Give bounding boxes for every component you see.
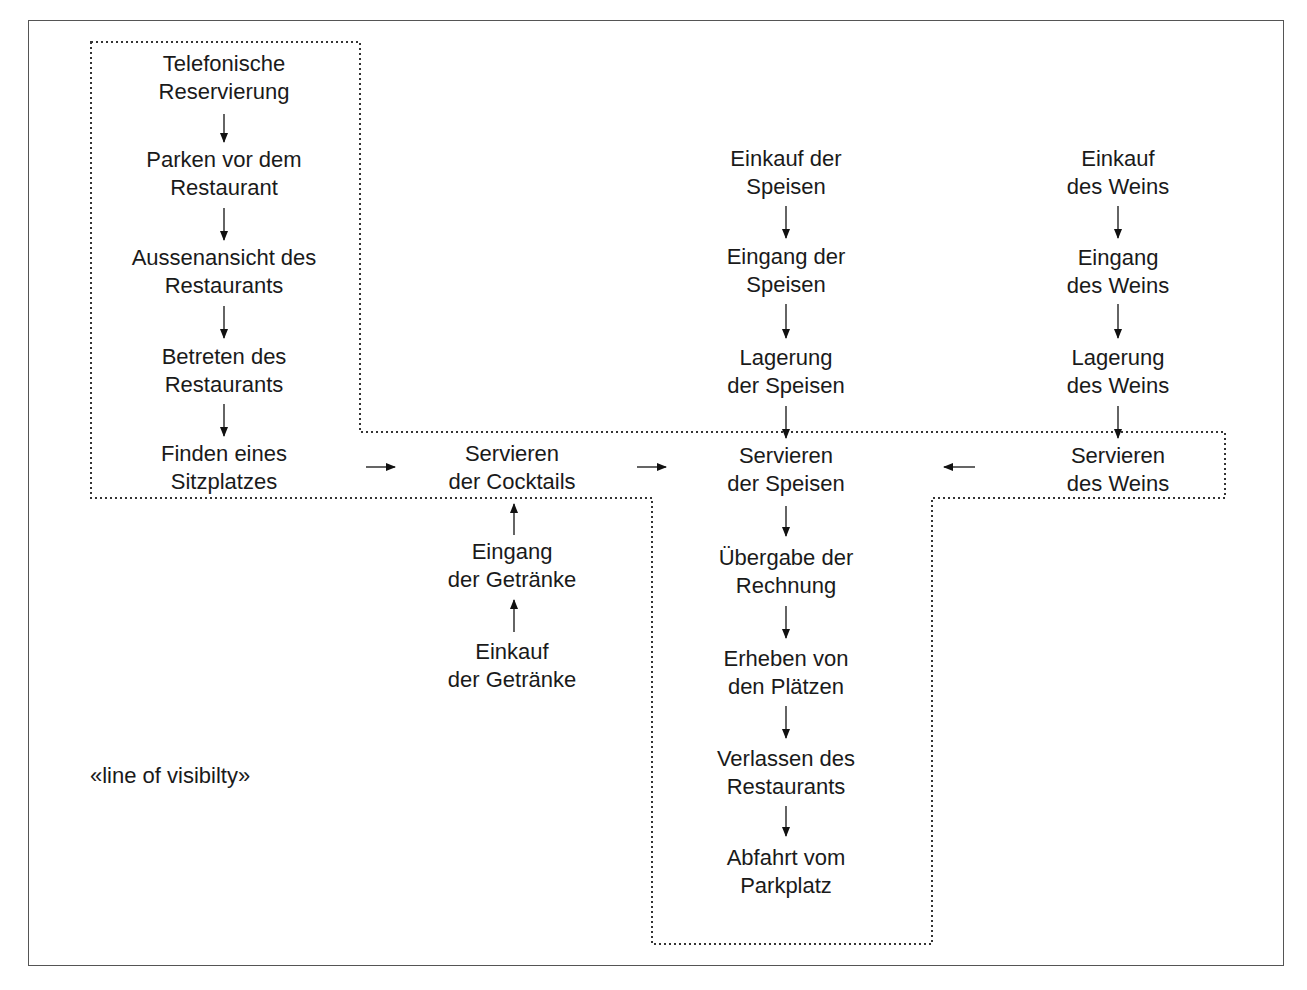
node-line: der Speisen (656, 470, 916, 498)
node-line: der Getränke (382, 666, 642, 694)
node-line: des Weins (988, 272, 1248, 300)
node-einkauf-wein: Einkauf des Weins (988, 145, 1248, 201)
node-line: Aussenansicht des (94, 244, 354, 272)
node-line: Betreten des (94, 343, 354, 371)
node-line: der Getränke (382, 566, 642, 594)
node-servieren-speisen: Servieren der Speisen (656, 442, 916, 498)
node-line: Speisen (656, 271, 916, 299)
node-line: den Plätzen (656, 673, 916, 701)
node-line: Sitzplatzes (94, 468, 354, 496)
node-line: Übergabe der (656, 544, 916, 572)
node-finden-sitzplatz: Finden eines Sitzplatzes (94, 440, 354, 496)
node-line: des Weins (988, 173, 1248, 201)
node-line: Parken vor dem (94, 146, 354, 174)
node-telefonische-reservierung: Telefonische Reservierung (94, 50, 354, 106)
node-servieren-wein: Servieren des Weins (988, 442, 1248, 498)
node-line: Eingang (988, 244, 1248, 272)
node-line: Restaurants (94, 371, 354, 399)
node-line: Einkauf (988, 145, 1248, 173)
node-line: Erheben von (656, 645, 916, 673)
node-line: des Weins (988, 470, 1248, 498)
node-line: Lagerung (656, 344, 916, 372)
node-erheben: Erheben von den Plätzen (656, 645, 916, 701)
node-betreten: Betreten des Restaurants (94, 343, 354, 399)
node-line: Verlassen des (656, 745, 916, 773)
node-line: Einkauf der (656, 145, 916, 173)
node-line: Telefonische (94, 50, 354, 78)
node-line: Finden eines (94, 440, 354, 468)
node-line: Servieren (656, 442, 916, 470)
node-servieren-cocktails: Servieren der Cocktails (382, 440, 642, 496)
node-line: Abfahrt vom (656, 844, 916, 872)
node-line: Parkplatz (656, 872, 916, 900)
node-einkauf-speisen: Einkauf der Speisen (656, 145, 916, 201)
node-eingang-speisen: Eingang der Speisen (656, 243, 916, 299)
node-line: des Weins (988, 372, 1248, 400)
node-eingang-getraenke: Eingang der Getränke (382, 538, 642, 594)
line-of-visibility-label: «line of visibilty» (90, 762, 250, 790)
node-line: Einkauf (382, 638, 642, 666)
node-line: Reservierung (94, 78, 354, 106)
node-line: Lagerung (988, 344, 1248, 372)
node-line: Servieren (382, 440, 642, 468)
node-line: der Cocktails (382, 468, 642, 496)
node-einkauf-getraenke: Einkauf der Getränke (382, 638, 642, 694)
node-line: Restaurant (94, 174, 354, 202)
node-line: Speisen (656, 173, 916, 201)
node-line: Servieren (988, 442, 1248, 470)
node-abfahrt: Abfahrt vom Parkplatz (656, 844, 916, 900)
node-line: Eingang (382, 538, 642, 566)
node-eingang-wein: Eingang des Weins (988, 244, 1248, 300)
node-lagerung-wein: Lagerung des Weins (988, 344, 1248, 400)
node-line: der Speisen (656, 372, 916, 400)
node-line: Rechnung (656, 572, 916, 600)
node-lagerung-speisen: Lagerung der Speisen (656, 344, 916, 400)
node-line: Restaurants (94, 272, 354, 300)
node-uebergabe-rechnung: Übergabe der Rechnung (656, 544, 916, 600)
node-verlassen: Verlassen des Restaurants (656, 745, 916, 801)
node-line: Restaurants (656, 773, 916, 801)
node-parken: Parken vor dem Restaurant (94, 146, 354, 202)
node-line: Eingang der (656, 243, 916, 271)
node-aussenansicht: Aussenansicht des Restaurants (94, 244, 354, 300)
